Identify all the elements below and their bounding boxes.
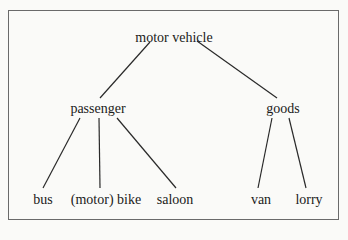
node-lorry: lorry xyxy=(295,192,322,208)
edge-line xyxy=(117,118,176,188)
node-root-motor-vehicle: motor vehicle xyxy=(135,30,212,46)
node-passenger: passenger xyxy=(70,101,125,117)
edge-line xyxy=(43,118,80,188)
edge-line xyxy=(100,42,150,98)
node-bus: bus xyxy=(33,192,52,208)
node-saloon: saloon xyxy=(157,192,194,208)
edge-line xyxy=(197,41,277,98)
node-goods: goods xyxy=(266,101,299,117)
edge-line xyxy=(289,118,306,188)
edge-line xyxy=(258,118,272,188)
edge-line xyxy=(99,118,100,188)
node-motor-bike: (motor) bike xyxy=(71,192,141,208)
node-van: van xyxy=(251,192,271,208)
